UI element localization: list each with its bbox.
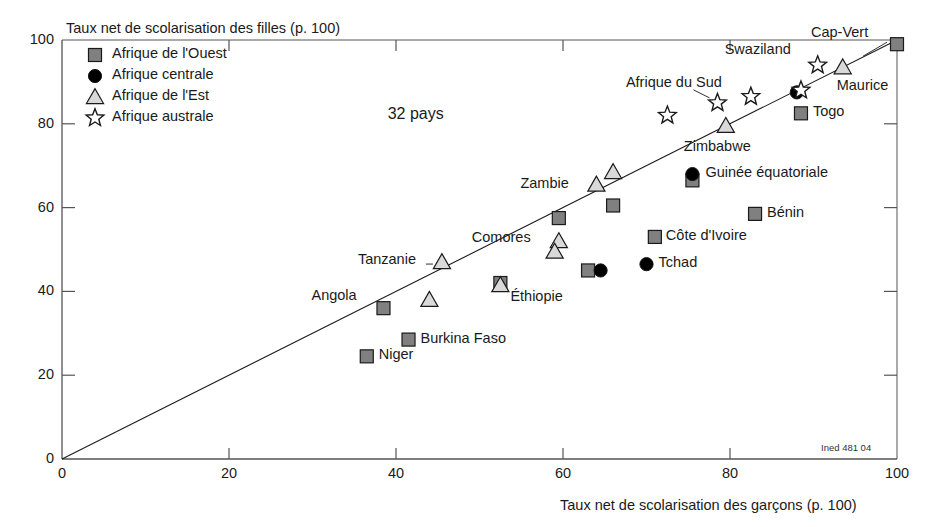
data-point-label: Angola: [311, 287, 356, 303]
data-point-label: Guinée équatoriale: [705, 164, 828, 180]
data-point-triangle: [421, 291, 438, 306]
y-tick-label: 60: [2, 199, 54, 215]
legend-item-label: Afrique de l'Est: [112, 87, 209, 103]
y-axis-title: Taux net de scolarisation des filles (p.…: [66, 20, 340, 36]
data-point-square: [749, 207, 762, 220]
data-point-square: [794, 107, 807, 120]
y-tick-label: 0: [2, 450, 54, 466]
data-point-triangle: [588, 176, 605, 191]
legend-item-label: Afrique centrale: [112, 66, 214, 82]
x-tick-label: 40: [371, 465, 421, 481]
y-tick-label: 40: [2, 282, 54, 298]
legend-item-label: Afrique de l'Ouest: [112, 45, 227, 61]
data-point-square: [582, 264, 595, 277]
data-point-square: [402, 333, 415, 346]
data-point-square: [648, 230, 661, 243]
x-tick-label: 0: [37, 465, 87, 481]
x-tick-label: 80: [705, 465, 755, 481]
data-point-label: Niger: [379, 346, 414, 362]
x-tick-label: 100: [872, 465, 922, 481]
credit-note: Ined 481 04: [821, 442, 871, 453]
y-tick-label: 80: [2, 115, 54, 131]
data-point-label: Côte d'Ivoire: [666, 227, 747, 243]
country-count-annotation: 32 pays: [388, 105, 444, 123]
x-tick-label: 20: [204, 465, 254, 481]
data-point-star: [709, 94, 727, 111]
data-point-label: Maurice: [837, 77, 889, 93]
y-tick-label: 100: [2, 31, 54, 47]
legend-item-label: Afrique australe: [112, 108, 214, 124]
data-point-star: [659, 106, 677, 123]
data-point-square: [360, 350, 373, 363]
data-point-label: Zimbabwe: [684, 138, 751, 154]
data-point-square: [891, 38, 904, 51]
data-point-square: [552, 212, 565, 225]
data-point-square: [377, 302, 390, 315]
data-point-star: [742, 87, 760, 104]
data-point-circle: [640, 258, 653, 271]
data-point-square: [607, 199, 620, 212]
scatter-chart: Taux net de scolarisation des filles (p.…: [0, 0, 925, 527]
data-point-star: [809, 56, 827, 73]
data-point-label: Togo: [813, 103, 844, 119]
data-point-label: Tanzanie: [358, 251, 416, 267]
data-point-label: Comores: [472, 229, 531, 245]
capvert-leader-line: [863, 42, 887, 56]
x-tick-label: 60: [538, 465, 588, 481]
data-point-label: Tchad: [659, 254, 698, 270]
data-point-label: Bénin: [767, 204, 804, 220]
data-point-label: Swaziland: [725, 41, 791, 57]
data-point-triangle: [433, 254, 450, 269]
data-point-label: Zambie: [520, 175, 568, 191]
data-point-label: Cap-Vert: [811, 24, 868, 40]
x-axis-title: Taux net de scolarisation des garçons (p…: [560, 497, 857, 513]
data-point-circle: [686, 167, 699, 180]
y-tick-label: 20: [2, 366, 54, 382]
data-point-label: Éthiopie: [510, 288, 562, 304]
afrique-du-sud-leader-line: [693, 90, 709, 98]
data-point-label: Afrique du Sud: [626, 74, 722, 90]
data-point-label: Burkina Faso: [421, 330, 506, 346]
data-point-triangle: [717, 117, 734, 132]
data-point-triangle: [834, 59, 851, 74]
data-point-circle: [594, 264, 607, 277]
data-point-triangle: [605, 164, 622, 179]
